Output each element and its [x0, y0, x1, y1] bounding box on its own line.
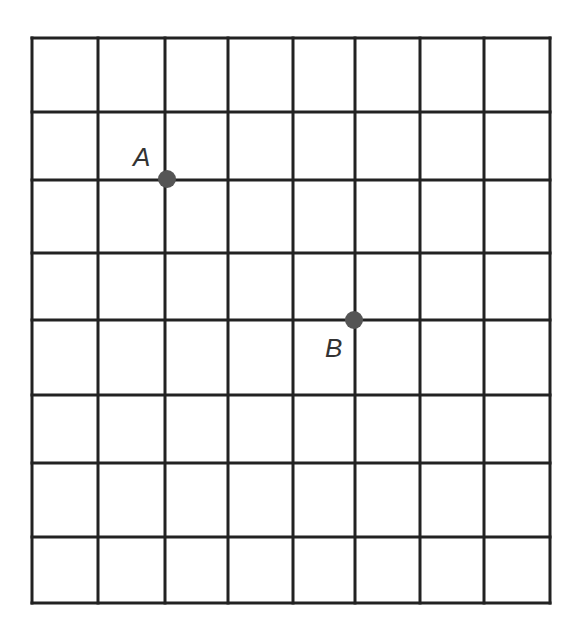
- point-b: [345, 311, 363, 329]
- point-label-a: A: [133, 142, 150, 173]
- grid-diagram: [0, 0, 578, 636]
- point-a: [158, 170, 176, 188]
- point-label-b: B: [325, 333, 342, 364]
